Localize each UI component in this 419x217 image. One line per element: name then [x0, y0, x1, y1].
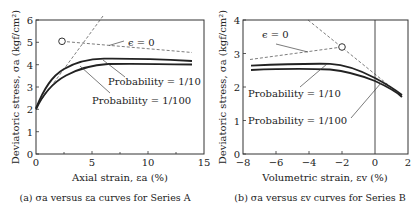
- x-tick-label: −8: [236, 157, 251, 168]
- caption-b: (b) σa versus εv curves for Series B: [234, 192, 405, 203]
- y-tick-labels-a: 0 1 2 3 4 5 6: [27, 15, 33, 160]
- eps0-asymptote-a: [62, 41, 192, 52]
- y-tick-label: 2: [234, 82, 240, 93]
- y-tick-label: 4: [234, 15, 240, 26]
- leader-p10-b: [300, 64, 327, 87]
- x-axis-label-a: Axial strain, εa (%): [71, 172, 168, 183]
- x-tick-labels-a: 0 5 10 15: [33, 157, 211, 168]
- y-tick-label: 5: [27, 37, 33, 48]
- caption-a: (a) σa versus εa curves for Series A: [19, 192, 190, 203]
- annotation-p10-b: Probability = 1/10: [248, 88, 341, 99]
- y-tick-label: 1: [27, 127, 33, 138]
- panel-a: 0 1 2 3 4 5 6 0 5 10 15 Axial strain, εa…: [10, 10, 210, 203]
- y-tick-label: 1: [234, 116, 240, 127]
- y-axis-label-b: Deviatoric stress, σa (kgf/cm²): [217, 10, 228, 165]
- figure: 0 1 2 3 4 5 6 0 5 10 15 Axial strain, εa…: [0, 0, 419, 217]
- annotation-eps0-b: ϵ = 0: [262, 29, 289, 40]
- y-ticks-a: [36, 20, 176, 154]
- y-tick-label: 6: [27, 15, 33, 26]
- x-tick-label: −6: [269, 157, 284, 168]
- y-tick-label: 4: [27, 60, 33, 71]
- leader-p100-a: [80, 66, 110, 93]
- leader-eps0-a: [109, 41, 124, 46]
- leader-p100-b: [351, 83, 381, 118]
- leader-p10-a: [103, 60, 125, 77]
- eps0-marker-b: [339, 44, 346, 51]
- x-tick-label: −2: [335, 157, 350, 168]
- y-tick-labels-b: 0 1 2 3 4: [234, 15, 240, 160]
- leader-eps0-b: [276, 44, 308, 52]
- x-tick-label: 15: [198, 157, 211, 168]
- annotation-p100-b: Probability = 1/100: [248, 115, 347, 126]
- annotation-p10-a: Probability = 1/10: [108, 76, 201, 87]
- panel-b: 0 1 2 3 4 −8 −6 −4 −2 0 2 Volumetric str…: [217, 10, 411, 203]
- y-tick-label: 2: [27, 104, 33, 115]
- x-tick-label: 0: [372, 157, 378, 168]
- ticks-b: [243, 20, 342, 154]
- plot-frame-b: [243, 20, 408, 154]
- x-axis-label-b: Volumetric strain, εv (%): [261, 172, 387, 183]
- x-tick-label: 5: [89, 157, 95, 168]
- y-axis-label-a: Deviatoric stress, σa (kgf/cm²): [10, 10, 21, 165]
- x-tick-label: 0: [33, 157, 39, 168]
- y-tick-label: 3: [234, 49, 240, 60]
- annotation-eps0-a: ϵ = 0: [128, 37, 155, 48]
- x-tick-label: 2: [405, 157, 411, 168]
- y-tick-label: 3: [27, 82, 33, 93]
- annotation-p100-a: Probability = 1/100: [92, 95, 191, 106]
- x-tick-label: −4: [302, 157, 317, 168]
- eps0-marker-a: [59, 38, 66, 45]
- x-tick-labels-b: −8 −6 −4 −2 0 2: [236, 157, 412, 168]
- x-tick-label: 10: [142, 157, 155, 168]
